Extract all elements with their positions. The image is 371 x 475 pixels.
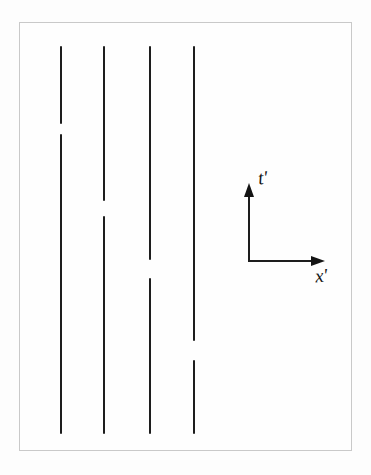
t-axis-label: t′ — [257, 168, 268, 188]
t-axis-shaft — [248, 195, 250, 262]
t-axis-arrowhead-icon — [244, 183, 254, 197]
x-axis-label: x′ — [314, 265, 329, 285]
axes-group: t′ x′ — [0, 0, 371, 475]
spacetime-diagram: t′ x′ — [0, 0, 371, 475]
x-axis-shaft — [249, 260, 312, 262]
